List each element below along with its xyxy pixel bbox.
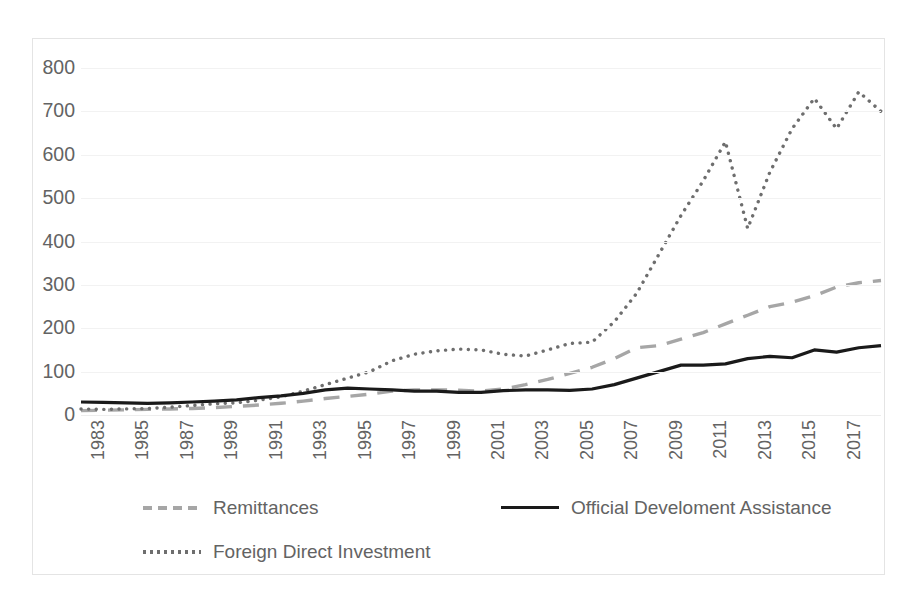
x-tick-label-2011: 2011 (711, 420, 729, 459)
y-tick-label-0: 0 (31, 405, 75, 425)
x-tick-label-1999: 1999 (445, 420, 463, 460)
plot-area (81, 68, 881, 415)
y-tick-label-400: 400 (31, 232, 75, 252)
series-line-foreign-direct-investment (81, 92, 881, 410)
x-tick-label-1985: 1985 (133, 420, 151, 460)
gridline-200 (81, 328, 881, 329)
gridline-100 (81, 372, 881, 373)
y-tick-label-100: 100 (31, 362, 75, 382)
x-tick-label-1995: 1995 (356, 420, 374, 460)
legend-item-official-development-assistance: Official Develoment Assistance (501, 494, 832, 520)
gridline-800 (81, 68, 881, 69)
x-tick-label-1983: 1983 (89, 420, 107, 460)
gridline-300 (81, 285, 881, 286)
x-tick-label-1991: 1991 (267, 420, 285, 460)
gridline-700 (81, 111, 881, 112)
y-tick-label-600: 600 (31, 145, 75, 165)
legend-label-remittances: Remittances (213, 498, 319, 517)
legend-label-foreign-direct-investment: Foreign Direct Investment (213, 542, 431, 561)
gridline-400 (81, 242, 881, 243)
legend-item-remittances: Remittances (143, 494, 319, 520)
x-tick-label-2009: 2009 (667, 420, 685, 460)
gridline-500 (81, 198, 881, 199)
x-tick-label-2013: 2013 (756, 420, 774, 460)
legend-item-foreign-direct-investment: Foreign Direct Investment (143, 538, 431, 564)
y-axis: 8007006005004003002001000 (33, 68, 75, 415)
legend-swatch-foreign-direct-investment (143, 544, 201, 558)
x-tick-label-1987: 1987 (178, 420, 196, 460)
chart-container: 8007006005004003002001000 19831985198719… (32, 38, 885, 575)
legend-swatch-remittances (143, 500, 201, 514)
gridline-0 (81, 415, 881, 416)
x-axis: 1983198519871989199119931995199719992001… (81, 420, 881, 500)
x-tick-label-1997: 1997 (400, 420, 418, 460)
legend-label-official-development-assistance: Official Develoment Assistance (571, 498, 832, 517)
x-tick-label-2015: 2015 (800, 420, 818, 460)
x-tick-label-2003: 2003 (533, 420, 551, 460)
chart-legend: Remittances Foreign Direct Investment Of… (81, 494, 881, 572)
x-tick-label-2005: 2005 (578, 420, 596, 460)
x-tick-label-2001: 2001 (489, 420, 507, 460)
y-tick-label-500: 500 (31, 188, 75, 208)
series-line-official-develoment-assistance (81, 346, 881, 404)
y-tick-label-200: 200 (31, 319, 75, 339)
gridline-600 (81, 155, 881, 156)
y-tick-label-800: 800 (31, 58, 75, 78)
x-tick-label-2007: 2007 (622, 420, 640, 460)
y-tick-label-700: 700 (31, 102, 75, 122)
x-tick-label-1989: 1989 (222, 420, 240, 460)
legend-swatch-official-development-assistance (501, 500, 559, 514)
x-tick-label-2017: 2017 (845, 420, 863, 460)
y-tick-label-300: 300 (31, 275, 75, 295)
x-tick-label-1993: 1993 (311, 420, 329, 460)
